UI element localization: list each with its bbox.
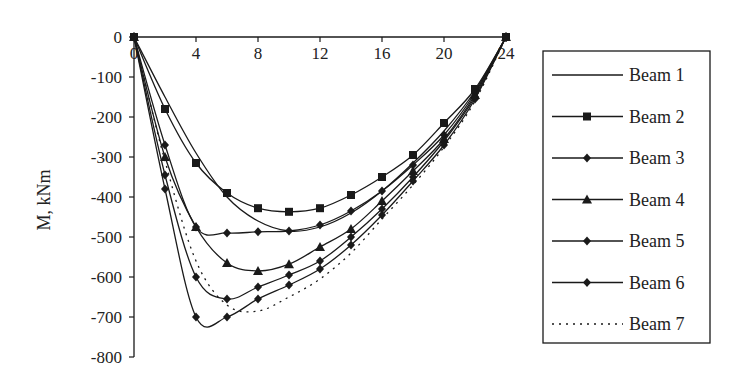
square-marker — [347, 191, 355, 199]
square-marker — [161, 105, 169, 113]
x-tick-label: 4 — [192, 44, 201, 63]
legend-label: Beam 3 — [629, 148, 685, 168]
x-tick-label: 20 — [436, 44, 453, 63]
diamond-marker — [254, 283, 262, 292]
diamond-marker — [223, 313, 231, 322]
square-marker — [285, 208, 293, 216]
y-tick-label: -300 — [91, 148, 122, 167]
x-tick-label: 12 — [312, 44, 329, 63]
series-group — [129, 32, 511, 327]
y-tick-label: -700 — [91, 308, 122, 327]
y-tick-label: -800 — [91, 348, 122, 367]
square-marker — [192, 159, 200, 167]
diamond-marker — [223, 229, 231, 238]
y-tick-label: -500 — [91, 228, 122, 247]
diamond-marker — [192, 313, 200, 322]
diamond-marker — [254, 295, 262, 304]
y-tick-label: -400 — [91, 188, 122, 207]
square-marker — [223, 189, 231, 197]
legend-label: Beam 1 — [629, 65, 685, 85]
series-beam-1 — [134, 37, 506, 231]
legend-label: Beam 6 — [629, 273, 685, 293]
square-marker — [440, 119, 448, 127]
series-beam-4 — [129, 32, 511, 275]
legend-label: Beam 5 — [629, 231, 685, 251]
legend: Beam 1Beam 2Beam 3Beam 4Beam 5Beam 6Beam… — [543, 51, 710, 343]
series-beam-6 — [130, 33, 510, 328]
series-line — [134, 37, 506, 231]
legend-label: Beam 2 — [629, 107, 685, 127]
square-marker — [409, 151, 417, 159]
y-axis-title: M, kNm — [34, 169, 54, 230]
diamond-marker — [254, 227, 262, 236]
legend-label: Beam 4 — [629, 190, 685, 210]
axes: 048121620240-100-200-300-400-500-600-700… — [91, 28, 515, 367]
x-tick-label: 16 — [374, 44, 391, 63]
series-beam-5 — [130, 33, 510, 304]
square-marker — [254, 204, 262, 212]
y-tick-label: -200 — [91, 108, 122, 127]
diamond-marker — [192, 273, 200, 282]
diamond-marker — [378, 187, 386, 196]
y-tick-label: -100 — [91, 68, 122, 87]
triangle-marker — [315, 242, 325, 251]
diamond-marker — [223, 295, 231, 304]
legend-box — [543, 51, 710, 343]
series-line — [134, 37, 506, 327]
triangle-marker — [222, 258, 232, 267]
diamond-marker — [285, 227, 293, 236]
triangle-marker — [346, 224, 356, 233]
x-tick-label: 8 — [254, 44, 263, 63]
diamond-marker — [316, 257, 324, 266]
moment-chart: 048121620240-100-200-300-400-500-600-700… — [0, 0, 741, 381]
square-marker — [583, 113, 591, 121]
diamond-marker — [316, 265, 324, 274]
y-tick-label: 0 — [114, 28, 123, 47]
diamond-marker — [285, 271, 293, 280]
square-marker — [378, 173, 386, 181]
square-marker — [316, 204, 324, 212]
triangle-marker — [284, 259, 294, 268]
diamond-marker — [285, 281, 293, 290]
legend-label: Beam 7 — [629, 314, 685, 334]
y-tick-label: -600 — [91, 268, 122, 287]
